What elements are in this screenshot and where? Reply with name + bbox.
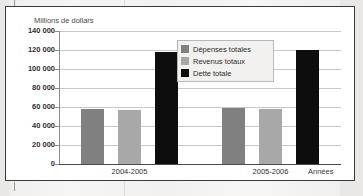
- y-axis-tick: [55, 88, 59, 89]
- y-axis-tick-label: 20 000: [32, 141, 55, 149]
- bar: [155, 52, 178, 164]
- legend-swatch-icon: [181, 69, 189, 77]
- y-axis-tick-label: 100 000: [28, 65, 55, 73]
- y-axis-tick: [55, 50, 59, 51]
- screenshot-root: Millions de dollars 140 000120 000100 00…: [0, 0, 363, 196]
- y-axis-tick: [55, 69, 59, 70]
- legend-swatch-icon: [181, 57, 189, 65]
- y-axis-tick-label: 40 000: [32, 122, 55, 130]
- y-axis-tick: [55, 31, 59, 32]
- x-axis-tick-label: 2005-2006: [231, 167, 311, 176]
- legend-item-label: Dépenses totales: [193, 45, 251, 54]
- bar: [81, 109, 104, 164]
- x-axis-title: Années: [308, 167, 333, 176]
- bar: [259, 109, 282, 164]
- y-axis-tick: [55, 126, 59, 127]
- chart-frame: Millions de dollars 140 000120 000100 00…: [5, 6, 355, 181]
- y-axis-tick: [55, 164, 59, 165]
- y-axis-tick-label: 80 000: [32, 84, 55, 92]
- y-axis-title: Millions de dollars: [34, 16, 94, 25]
- x-axis-line: [59, 164, 341, 165]
- legend-item: Dette totale: [181, 67, 270, 79]
- bar: [296, 50, 319, 164]
- y-axis-tick: [55, 107, 59, 108]
- y-axis-tick-label: 60 000: [32, 103, 55, 111]
- y-axis-tick-label: 120 000: [28, 46, 55, 54]
- legend-item-label: Dette totale: [193, 69, 231, 78]
- bar: [222, 108, 245, 164]
- legend-item-label: Revenus totaux: [193, 57, 245, 66]
- legend-swatch-icon: [181, 45, 189, 53]
- legend-item: Dépenses totales: [181, 43, 270, 55]
- x-axis-tick-label: 2004-2005: [90, 167, 170, 176]
- y-axis-tick-labels: 140 000120 000100 00080 00060 00040 0002…: [14, 31, 55, 164]
- legend-item: Revenus totaux: [181, 55, 270, 67]
- scan-registration-mark-bottom: [14, 182, 15, 191]
- y-axis-tick: [55, 145, 59, 146]
- chart-legend: Dépenses totalesRevenus totauxDette tota…: [177, 40, 274, 82]
- y-axis-line: [59, 31, 60, 164]
- bar: [118, 110, 141, 164]
- y-axis-tick-label: 140 000: [28, 27, 55, 35]
- gridline: [59, 31, 341, 32]
